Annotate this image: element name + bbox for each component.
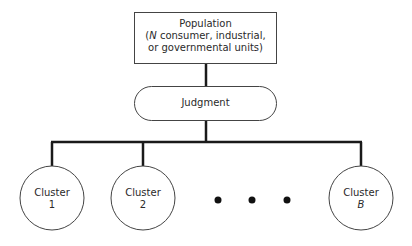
ellipsis-dot-icon <box>284 197 291 204</box>
population-subtitle-line2: (N consumer, industrial, <box>134 30 277 42</box>
cluster-1-id: 1 <box>20 199 84 211</box>
population-subtitle-rest: consumer, industrial, <box>157 30 266 41</box>
ellipsis-dot-icon <box>249 197 256 204</box>
cluster-b-name: Cluster <box>329 187 393 199</box>
population-label: Population (N consumer, industrial, or g… <box>134 18 277 54</box>
cluster-2-id: 2 <box>111 199 175 211</box>
cluster-2-name: Cluster <box>111 187 175 199</box>
cluster-1-name: Cluster <box>20 187 84 199</box>
cluster-2-label: Cluster 2 <box>111 187 175 211</box>
judgment-label: Judgment <box>134 97 277 109</box>
cluster-b-id: B <box>329 199 393 211</box>
population-title: Population <box>134 18 277 30</box>
ellipsis-dot-icon <box>215 197 222 204</box>
cluster-1-label: Cluster 1 <box>20 187 84 211</box>
population-subtitle-line3: or governmental units) <box>134 42 277 54</box>
cluster-b-label: Cluster B <box>329 187 393 211</box>
n-variable: N <box>149 30 156 41</box>
